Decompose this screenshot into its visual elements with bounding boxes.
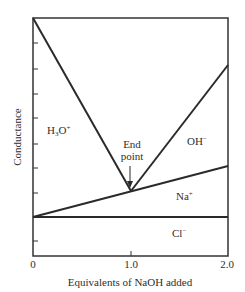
h3o-branch-line [33, 18, 131, 191]
x-tick-label-2: 2.0 [220, 258, 234, 270]
h3o-label: H3O+ [47, 124, 70, 138]
x-tick-label-0: 0 [30, 258, 36, 270]
y-axis-title: Conductance [11, 108, 23, 166]
oh-label: OH− [187, 135, 207, 147]
end-point-label-line2: point [121, 150, 144, 162]
end-point-label-line1: End [123, 138, 141, 150]
na-label: Na+ [176, 190, 193, 202]
x-axis-title: Equivalents of NaOH added [68, 276, 193, 288]
conductance-chart: H3O+ OH− Na+ Cl− End point 0 1.0 2.0 Equ… [0, 0, 245, 292]
oh-branch-line [131, 65, 228, 191]
cl-label: Cl− [172, 227, 186, 239]
x-tick-label-1: 1.0 [124, 258, 138, 270]
